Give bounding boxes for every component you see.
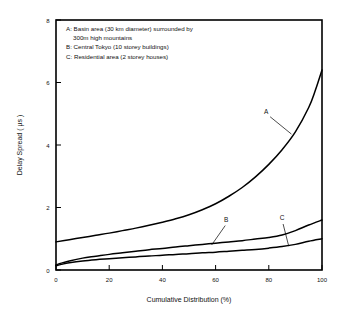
x-tick-label: 100 [317,277,328,283]
y-tick-label: 0 [46,268,50,274]
legend-line: A: Basin area (30 km diameter) surrounde… [66,25,194,32]
y-tick-label: 6 [46,80,50,86]
curve-b [56,220,322,265]
y-axis-title: Delay Spread ( µs ) [16,115,24,175]
x-tick-label: 0 [54,277,58,283]
chart-canvas: 02040608010002468Cumulative Distribution… [0,0,346,315]
legend-line: C: Residential area (2 storey houses) [66,53,168,60]
curve-label-a: A [264,108,269,115]
x-tick-label: 80 [265,277,272,283]
x-axis-title: Cumulative Distribution (%) [147,296,232,304]
curve-label-c: C [280,214,285,221]
x-tick-label: 40 [159,277,166,283]
leader-line-a [270,117,291,134]
x-tick-label: 20 [106,277,113,283]
legend-line: 300m high mountains [73,34,132,41]
delay-spread-chart: 02040608010002468Cumulative Distribution… [0,0,346,315]
curve-c [56,239,322,266]
x-tick-label: 60 [212,277,219,283]
curve-label-b: B [224,216,228,223]
legend-line: B: Central Tokyo (10 storey buildings) [66,43,169,50]
y-tick-label: 8 [46,18,50,24]
y-tick-label: 4 [46,143,50,149]
y-tick-label: 2 [46,205,50,211]
